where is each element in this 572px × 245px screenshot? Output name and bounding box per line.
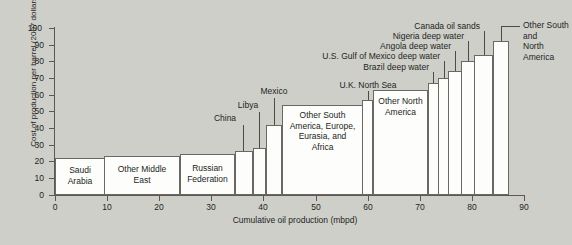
y-tick-label-90: 90: [20, 41, 44, 50]
x-axis-line: [54, 195, 525, 196]
bar-russian-federation: [180, 154, 235, 195]
x-tick-label-30: 30: [196, 203, 226, 212]
x-tick-60: [368, 196, 369, 201]
y-tick-label-0: 0: [20, 191, 44, 200]
leader-line-mexico: [274, 98, 275, 125]
bar-libya: [253, 148, 266, 195]
bar-saudi-arabia: [55, 158, 105, 195]
leader-line-canada-oil-sands: [484, 31, 485, 55]
x-tick-label-60: 60: [353, 203, 383, 212]
leader-line-other-south-north-america-v: [501, 26, 502, 41]
y-tick-label-60: 60: [20, 91, 44, 100]
x-tick-label-10: 10: [92, 203, 122, 212]
leader-line-nigeria-deep-water: [468, 41, 469, 61]
leader-line-china: [243, 125, 244, 151]
y-tick-label-20: 20: [20, 157, 44, 166]
x-tick-30: [211, 196, 212, 201]
x-tick-40: [263, 196, 264, 201]
bar-other-south-america-europe-eurasia-africa: [282, 105, 363, 195]
leader-line-uk-north-sea: [368, 91, 369, 100]
leader-line-angola-deep-water: [455, 51, 456, 71]
callout-nigeria-deep-water: Nigeria deep water: [362, 31, 464, 42]
bar-other-south-and-north-america: [493, 41, 509, 195]
y-tick-label-100: 100: [18, 24, 42, 33]
x-tick-label-0: 0: [40, 203, 70, 212]
callout-angola-deep-water: Angola deep water: [350, 41, 451, 52]
callout-canada-oil-sands: Canada oil sands: [386, 21, 480, 32]
callout-libya: Libya: [226, 100, 270, 111]
x-tick-20: [159, 196, 160, 201]
osna-line3: North: [523, 41, 544, 51]
x-tick-label-80: 80: [457, 203, 487, 212]
bar-uk-north-sea: [362, 100, 373, 195]
leader-line-libya: [259, 112, 260, 148]
leader-line-brazil-deep-water: [433, 72, 434, 83]
chart-figure: Cost of production per barrel (2007 doll…: [0, 0, 572, 245]
y-tick-label-10: 10: [20, 174, 44, 183]
bar-canada-oil-sands: [474, 55, 493, 195]
x-tick-label-90: 90: [509, 203, 539, 212]
osna-line2: and: [523, 31, 537, 41]
bar-mexico: [266, 125, 282, 195]
x-tick-label-20: 20: [144, 203, 174, 212]
y-tick-label-70: 70: [20, 74, 44, 83]
y-tick-label-50: 50: [20, 107, 44, 116]
callout-china: China: [203, 113, 247, 124]
bar-other-middle-east: [104, 156, 180, 195]
osna-line1: Other South: [523, 20, 569, 30]
x-tick-0: [55, 196, 56, 201]
x-tick-label-50: 50: [301, 203, 331, 212]
callout-us-gulf-of-mexico-deep-water: U.S. Gulf of Mexico deep water: [289, 51, 440, 62]
callout-uk-north-sea: U.K. North Sea: [324, 80, 412, 91]
bar-nigeria-deep-water: [461, 61, 475, 195]
y-tick-label-30: 30: [20, 141, 44, 150]
bar-angola-deep-water: [448, 71, 462, 195]
x-tick-90: [524, 196, 525, 201]
x-tick-label-40: 40: [248, 203, 278, 212]
y-tick-label-80: 80: [20, 57, 44, 66]
x-tick-label-70: 70: [405, 203, 435, 212]
x-tick-70: [420, 196, 421, 201]
bar-other-north-america: [373, 90, 428, 195]
x-tick-50: [316, 196, 317, 201]
y-tick-label-40: 40: [20, 124, 44, 133]
callout-brazil-deep-water: Brazil deep water: [333, 62, 429, 73]
leader-line-other-south-north-america-h: [501, 26, 520, 27]
osna-line4: America: [523, 52, 554, 62]
leader-line-us-gulf-of-mexico-deep-water: [444, 61, 445, 78]
callout-other-south-and-north-america: Other South and North America: [523, 20, 571, 62]
x-tick-80: [472, 196, 473, 201]
x-axis-label: Cumulative oil production (mbpd): [150, 216, 440, 225]
x-tick-10: [107, 196, 108, 201]
callout-mexico: Mexico: [249, 86, 299, 97]
bar-china: [235, 151, 253, 195]
